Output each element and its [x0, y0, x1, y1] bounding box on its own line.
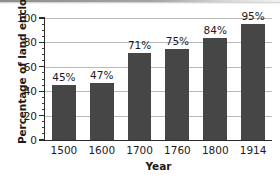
- y-tick-label: 0: [0, 135, 37, 146]
- y-tick-label: 80: [0, 37, 37, 48]
- y-tick-label: 40: [0, 86, 37, 97]
- y-tick-label: 20: [0, 111, 37, 122]
- y-axis-title: Percentage of land enclosed: [16, 4, 28, 144]
- x-tick-label: 1914: [231, 144, 275, 156]
- bar-chart-figure: Percentage of land enclosed Year 0204060…: [0, 0, 280, 176]
- bar-value-label: 95%: [233, 11, 273, 22]
- bar: [128, 53, 152, 140]
- scan-artifact-band: [0, 0, 280, 4]
- y-tick-label: 100: [0, 13, 37, 24]
- x-axis-title: Year: [45, 160, 272, 172]
- bar: [241, 24, 265, 140]
- bar: [52, 85, 76, 140]
- bar-value-label: 71%: [120, 40, 160, 51]
- bar-value-label: 45%: [44, 72, 84, 83]
- bar-value-label: 84%: [195, 25, 235, 36]
- bar-value-label: 47%: [82, 70, 122, 81]
- bar: [90, 83, 114, 140]
- bar: [165, 49, 189, 141]
- bar: [203, 38, 227, 140]
- bar-value-label: 75%: [157, 36, 197, 47]
- y-tick-label: 60: [0, 62, 37, 73]
